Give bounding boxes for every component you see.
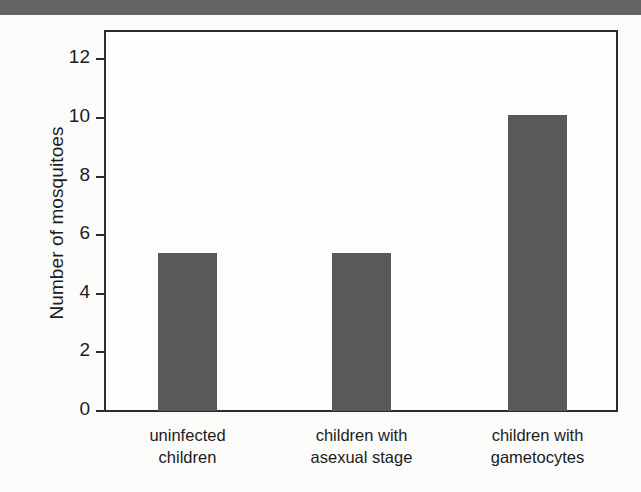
x-category-label-line: children bbox=[88, 446, 288, 468]
bar-chart-figure: Number of mosquitoes 024681012 uninfecte… bbox=[0, 0, 641, 492]
x-category-label-1: uninfectedchildren bbox=[88, 424, 288, 468]
y-tick-label-10: 10 bbox=[38, 105, 90, 127]
y-tick-label-4: 4 bbox=[38, 281, 90, 303]
x-category-label-2: children withasexual stage bbox=[262, 424, 462, 468]
x-category-label-line: children with bbox=[438, 424, 638, 446]
x-category-label-line: gametocytes bbox=[438, 446, 638, 468]
x-category-label-line: children with bbox=[262, 424, 462, 446]
y-tick-label-12: 12 bbox=[38, 46, 90, 68]
x-category-label-line: uninfected bbox=[88, 424, 288, 446]
y-tick-8 bbox=[96, 176, 105, 178]
y-tick-4 bbox=[96, 293, 105, 295]
y-tick-label-6: 6 bbox=[38, 222, 90, 244]
y-tick-label-8: 8 bbox=[38, 164, 90, 186]
bar-1 bbox=[158, 253, 217, 411]
y-tick-12 bbox=[96, 58, 105, 60]
y-tick-label-2: 2 bbox=[38, 339, 90, 361]
y-tick-6 bbox=[96, 234, 105, 236]
y-tick-label-0: 0 bbox=[38, 398, 90, 420]
x-category-label-3: children withgametocytes bbox=[438, 424, 638, 468]
y-tick-2 bbox=[96, 351, 105, 353]
y-tick-0 bbox=[96, 410, 105, 412]
y-tick-10 bbox=[96, 117, 105, 119]
x-category-label-line: asexual stage bbox=[262, 446, 462, 468]
bar-3 bbox=[508, 115, 567, 411]
bar-2 bbox=[332, 253, 391, 411]
